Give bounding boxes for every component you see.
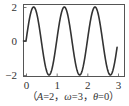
caption-paren-open: （ [27, 91, 37, 102]
y-tick-label: −2 [5, 69, 17, 81]
caption-value: =3， [72, 91, 93, 102]
caption-variable: ω [64, 91, 71, 102]
caption-paren-close: ） [109, 91, 119, 102]
y-tick-label: 0 [12, 35, 18, 47]
x-tick-label: 0 [24, 79, 30, 91]
caption-value: =2， [43, 91, 64, 102]
x-tick-label: 1 [54, 79, 60, 91]
plot-frame [24, 5, 125, 77]
x-tick-label: 2 [85, 79, 91, 91]
y-tick-label: 2 [12, 1, 18, 13]
sine-curve [24, 7, 118, 75]
sine-wave-chart: 012320−2 （A=2，ω=3，θ=0） [0, 0, 129, 106]
caption-value: =0 [98, 91, 109, 102]
chart-caption: （A=2，ω=3，θ=0） [27, 91, 120, 102]
x-tick-label: 3 [116, 79, 122, 91]
